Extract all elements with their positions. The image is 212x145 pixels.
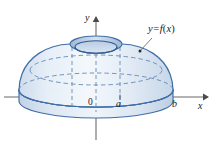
x-axis-arrowhead bbox=[203, 94, 209, 101]
curve-close-paren: ) bbox=[171, 23, 175, 34]
x-axis-label: x bbox=[198, 101, 202, 111]
y-axis-arrowhead bbox=[93, 16, 100, 22]
y-axis-label: y bbox=[85, 13, 89, 23]
point-a-label: a bbox=[116, 99, 121, 109]
solid-of-revolution-figure: y=f(x) y x 0 a b bbox=[0, 0, 212, 145]
leader-endpoint-dot bbox=[139, 50, 142, 53]
figure-canvas bbox=[0, 0, 212, 145]
top-hole bbox=[70, 36, 122, 53]
origin-label: 0 bbox=[88, 98, 93, 108]
point-b-label: b bbox=[172, 99, 177, 109]
curve-equation-label: y=f(x) bbox=[148, 24, 175, 35]
curve-operator: = bbox=[153, 23, 160, 34]
